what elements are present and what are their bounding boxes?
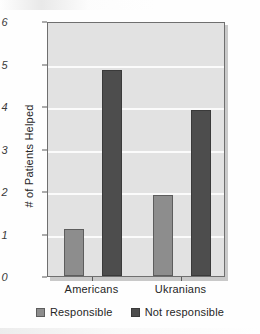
x-tick-label: Americans bbox=[65, 283, 119, 295]
bar-ukranians-not-responsible bbox=[191, 110, 211, 276]
y-tick-label: 0 bbox=[0, 271, 8, 283]
scan-artifact-top bbox=[0, 0, 260, 10]
y-tick-label: 5 bbox=[0, 59, 8, 71]
x-tick-mark bbox=[181, 277, 182, 281]
legend-swatch-icon-responsible bbox=[36, 308, 45, 317]
legend-swatch-icon-not-responsible bbox=[131, 308, 140, 317]
x-tick-mark bbox=[92, 277, 93, 281]
y-tick-label: 6 bbox=[0, 16, 8, 28]
plot-area bbox=[47, 22, 225, 277]
legend-label-not-responsible: Not responsible bbox=[145, 306, 224, 318]
bar-ukranians-responsible bbox=[153, 195, 173, 276]
y-tick-label: 3 bbox=[0, 144, 8, 156]
bar-americans-not-responsible bbox=[102, 70, 122, 276]
scan-artifact-bottom bbox=[0, 328, 260, 334]
y-tick-label: 1 bbox=[0, 229, 8, 241]
legend-item-responsible: Responsible bbox=[36, 306, 113, 318]
legend-item-not-responsible: Not responsible bbox=[131, 306, 224, 318]
bar-chart-figure: # of Patients Helped 0123456 AmericansUk… bbox=[0, 0, 260, 334]
chart-legend: Responsible Not responsible bbox=[0, 306, 260, 318]
x-tick-label: Ukranians bbox=[155, 283, 206, 295]
bar-americans-responsible bbox=[64, 229, 84, 276]
y-tick-label: 4 bbox=[0, 101, 8, 113]
gridline bbox=[48, 66, 224, 68]
legend-label-responsible: Responsible bbox=[50, 306, 113, 318]
y-axis-title: # of Patients Helped bbox=[23, 76, 35, 236]
y-tick-label: 2 bbox=[0, 186, 8, 198]
